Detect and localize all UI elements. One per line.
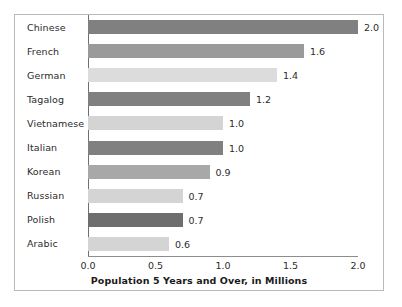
bar-value-label: 0.6 <box>175 238 190 249</box>
bar-track: 1.2 <box>88 87 383 111</box>
bar-value-label: 1.0 <box>229 142 244 153</box>
bar-value-label: 0.7 <box>189 214 204 225</box>
x-tick-label: 0.5 <box>148 260 163 271</box>
bar[interactable] <box>88 68 277 82</box>
x-axis-title: Population 5 Years and Over, in Millions <box>15 275 383 286</box>
bar-value-label: 1.0 <box>229 118 244 129</box>
category-label: Tagalog <box>27 87 87 111</box>
x-axis-line <box>88 256 358 257</box>
category-label: Arabic <box>27 232 87 256</box>
bar[interactable] <box>88 20 358 34</box>
bar-value-label: 1.4 <box>283 70 298 81</box>
category-label: Vietnamese <box>27 111 87 135</box>
bar-track: 1.0 <box>88 136 383 160</box>
plot-area: Chinese2.0French1.6German1.4Tagalog1.2Vi… <box>15 15 383 256</box>
x-tick-label: 1.5 <box>283 260 298 271</box>
bar-track: 1.4 <box>88 63 383 87</box>
bar-track: 0.6 <box>88 232 383 256</box>
bar-row: Arabic0.6 <box>15 232 383 256</box>
x-tick-label: 0.0 <box>80 260 95 271</box>
bar-value-label: 1.6 <box>310 46 325 57</box>
bar-row: Chinese2.0 <box>15 15 383 39</box>
bar-track: 1.0 <box>88 111 383 135</box>
bar-row: Vietnamese1.0 <box>15 111 383 135</box>
category-label: Polish <box>27 208 87 232</box>
bar-track: 0.7 <box>88 208 383 232</box>
category-label: German <box>27 63 87 87</box>
x-tick-label: 1.0 <box>215 260 230 271</box>
category-label: Chinese <box>27 15 87 39</box>
bar[interactable] <box>88 92 250 106</box>
category-label: Russian <box>27 184 87 208</box>
bar-row: German1.4 <box>15 63 383 87</box>
bar[interactable] <box>88 116 223 130</box>
bar-row: Polish0.7 <box>15 208 383 232</box>
bar-value-label: 2.0 <box>364 22 379 33</box>
bar[interactable] <box>88 189 183 203</box>
bar-track: 2.0 <box>88 15 383 39</box>
bar-value-label: 1.2 <box>256 94 271 105</box>
bar[interactable] <box>88 44 304 58</box>
bar[interactable] <box>88 237 169 251</box>
bar[interactable] <box>88 141 223 155</box>
category-label: Korean <box>27 160 87 184</box>
bar-track: 0.7 <box>88 184 383 208</box>
bar-row: Korean0.9 <box>15 160 383 184</box>
x-axis-tick-labels: 0.00.51.01.52.0 <box>15 260 383 274</box>
bar-value-label: 0.7 <box>189 190 204 201</box>
bar-row: Russian0.7 <box>15 184 383 208</box>
bar-value-label: 0.9 <box>216 166 231 177</box>
category-label: Italian <box>27 136 87 160</box>
chart-frame: Chinese2.0French1.6German1.4Tagalog1.2Vi… <box>14 14 384 291</box>
bar-row: Italian1.0 <box>15 136 383 160</box>
x-tick-label: 2.0 <box>350 260 365 271</box>
bar[interactable] <box>88 213 183 227</box>
bar-row: Tagalog1.2 <box>15 87 383 111</box>
category-label: French <box>27 39 87 63</box>
bar[interactable] <box>88 165 210 179</box>
bar-track: 0.9 <box>88 160 383 184</box>
bar-track: 1.6 <box>88 39 383 63</box>
bar-row: French1.6 <box>15 39 383 63</box>
